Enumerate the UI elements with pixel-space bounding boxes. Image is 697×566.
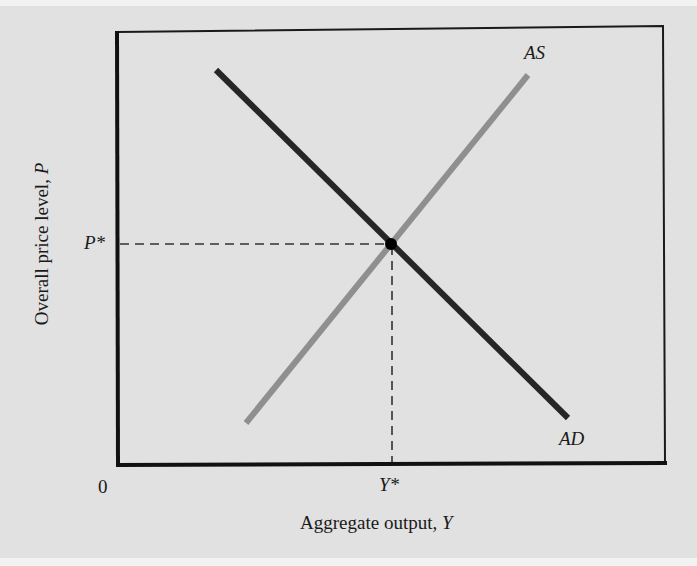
y-axis	[117, 31, 118, 466]
y-axis-label-text: Overall price level,	[31, 174, 52, 325]
y-axis-label-var: P	[31, 163, 52, 175]
x-axis	[116, 463, 667, 465]
ad-curve-label: AD	[559, 428, 584, 450]
p-star-label: P*	[84, 232, 105, 254]
x-axis-label: Aggregate output, Y	[300, 512, 453, 534]
origin-label: 0	[98, 476, 108, 498]
y-star-label: Y*	[379, 474, 399, 496]
x-axis-label-var: Y	[442, 512, 453, 533]
x-axis-label-text: Aggregate output,	[300, 512, 442, 533]
equilibrium-point	[385, 238, 397, 250]
as-curve	[246, 75, 528, 423]
y-axis-label: Overall price level, P	[31, 163, 53, 325]
as-curve-label: AS	[524, 42, 545, 64]
